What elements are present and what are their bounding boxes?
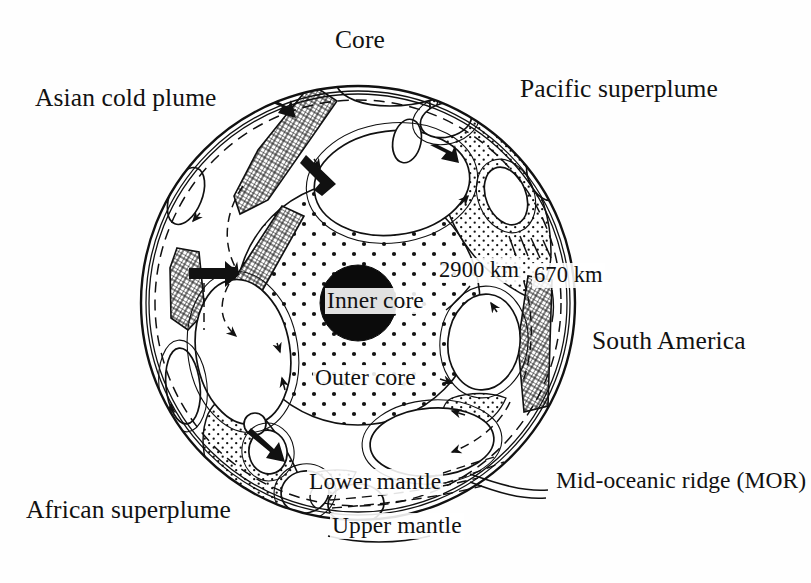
label-mid-oceanic-ridge: Mid-oceanic ridge (MOR) [556, 469, 806, 493]
label-inner-core: Inner core [325, 288, 426, 314]
label-core: Core [335, 27, 385, 53]
label-outer-core: Outer core [313, 365, 418, 391]
label-depth-670km: 670 km [532, 263, 605, 288]
label-lower-mantle: Lower mantle [307, 469, 443, 495]
label-african-superplume: African superplume [26, 497, 231, 523]
label-depth-2900km: 2900 km [437, 258, 521, 283]
label-asian-cold-plume: Asian cold plume [35, 85, 216, 111]
label-south-america: South America [592, 328, 746, 354]
label-pacific-superplume: Pacific superplume [520, 76, 718, 102]
diagram-canvas: Core Asian cold plume Pacific superplume… [0, 0, 811, 583]
label-upper-mantle: Upper mantle [330, 513, 464, 539]
